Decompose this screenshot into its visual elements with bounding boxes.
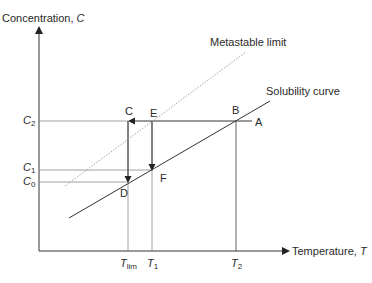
- x-axis-label: Temperature, T: [292, 245, 367, 258]
- point-d-label: D: [120, 187, 128, 200]
- point-a-label: A: [255, 116, 262, 129]
- y-axis-label-text: Concentration,: [2, 12, 74, 24]
- tick-c1-sub: 1: [31, 166, 35, 175]
- tick-t1-sub: 1: [154, 262, 158, 271]
- tick-t2: T2: [231, 257, 242, 273]
- tick-t1-sym: T: [147, 257, 154, 269]
- tick-t1: T1: [147, 257, 158, 273]
- point-c-label: C: [125, 105, 133, 118]
- point-b-label: B: [232, 104, 239, 117]
- solubility-curve-label: Solubility curve: [266, 85, 340, 98]
- solubility-curve: [69, 101, 270, 218]
- y-axis-symbol: C: [77, 12, 85, 24]
- tick-tlim: Tlim: [120, 257, 137, 273]
- tick-c1-sym: C: [23, 161, 31, 173]
- tick-t2-sym: T: [231, 257, 238, 269]
- x-axis-label-text: Temperature,: [292, 245, 357, 257]
- y-axis-label: Concentration, C: [2, 12, 85, 25]
- tick-c2-sub: 2: [31, 119, 35, 128]
- tick-tlim-sub: lim: [127, 262, 137, 271]
- x-axis-symbol: T: [360, 245, 367, 257]
- crystallization-diagram: [0, 0, 372, 283]
- tick-c2: C2: [23, 114, 35, 130]
- tick-c0-sub: 0: [31, 180, 35, 189]
- tick-c2-sym: C: [23, 114, 31, 126]
- point-e-label: E: [150, 107, 157, 120]
- point-f-label: F: [160, 172, 167, 185]
- tick-tlim-sym: T: [120, 257, 127, 269]
- metastable-limit-label: Metastable limit: [210, 36, 286, 49]
- arrowhead-c: [128, 118, 135, 125]
- tick-c0: C0: [23, 175, 35, 191]
- tick-c0-sym: C: [23, 175, 31, 187]
- tick-t2-sub: 2: [238, 262, 242, 271]
